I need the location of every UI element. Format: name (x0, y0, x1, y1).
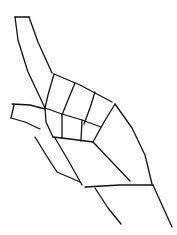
wrist-left-stroke (95, 188, 121, 224)
knuckle-top-edge-stroke (54, 74, 112, 102)
thumb-top-stroke (12, 104, 45, 109)
palm-crease-stroke (93, 142, 130, 181)
knuckle-bottom-line-stroke (53, 137, 93, 142)
hand-right-inner-stroke (93, 104, 115, 142)
knuckle-divider-4-stroke (81, 120, 82, 141)
knuckle-middle-line-stroke (45, 108, 101, 127)
knuckle-lower-left-stroke (45, 108, 53, 137)
hand-sketch-drawing (0, 0, 177, 235)
thumb-bottom-stroke (11, 118, 40, 129)
index-finger-right-edge-stroke (29, 17, 52, 73)
hand-sketch-canvas (0, 0, 177, 235)
knuckle-divider-2-stroke (84, 92, 95, 124)
wrist-right-stroke (153, 185, 172, 227)
knuckle-left-edge-stroke (45, 74, 54, 108)
hand-right-outer-stroke (115, 104, 152, 184)
knuckle-divider-1-stroke (62, 83, 75, 115)
wrist-top-stroke (85, 185, 153, 187)
index-finger-left-edge-stroke (15, 17, 45, 108)
finger-curl-2-stroke (55, 138, 82, 185)
thumb-left-stroke (11, 105, 14, 118)
finger-curl-1-stroke (35, 137, 80, 182)
